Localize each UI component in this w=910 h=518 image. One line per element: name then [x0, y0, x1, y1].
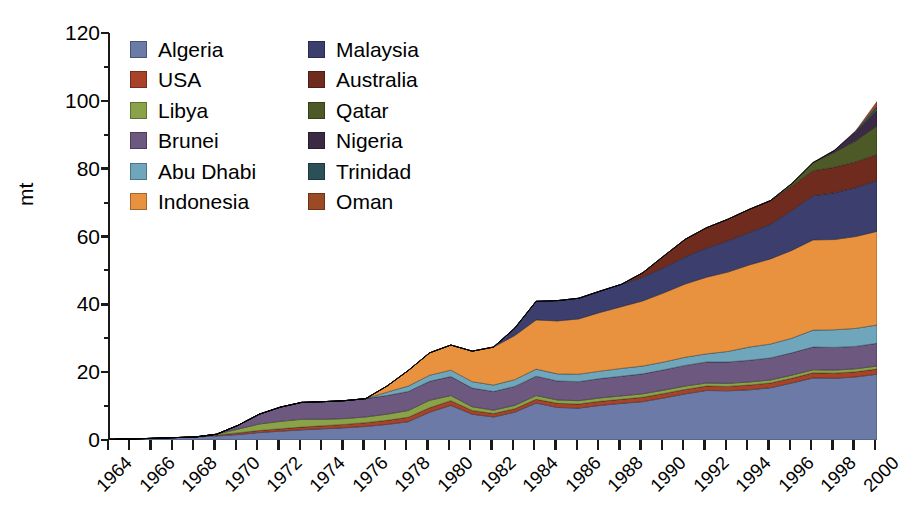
x-axis-tick-marks: [108, 440, 877, 451]
x-axis-tick-mark: [107, 440, 109, 450]
legend-swatch-icon: [308, 193, 325, 210]
x-axis-tick-mark: [746, 440, 748, 450]
legend-label: Oman: [336, 191, 393, 212]
x-axis-tick-mark: [128, 440, 130, 450]
x-axis-tick-mark: [277, 440, 279, 450]
x-axis-tick-mark: [490, 440, 492, 450]
legend-swatch-icon: [308, 102, 325, 119]
y-axis-tick-label: 40: [77, 293, 100, 314]
x-axis-tick-label: 1978: [390, 452, 435, 497]
x-axis-tick-mark: [512, 440, 514, 450]
x-axis-tick-label: 1982: [475, 452, 520, 497]
x-axis-tick-mark: [576, 440, 578, 450]
legend-item-trinidad[interactable]: Trinidad: [308, 156, 419, 187]
x-axis-tick-mark: [533, 440, 535, 450]
x-axis-tick-mark: [831, 440, 833, 450]
legend-item-malaysia[interactable]: Malaysia: [308, 34, 419, 65]
legend-item-libya[interactable]: Libya: [130, 95, 256, 126]
y-axis-tick-label: 120: [65, 22, 100, 43]
x-axis-tick-label: 1972: [262, 452, 307, 497]
x-axis-tick-mark: [618, 440, 620, 450]
x-axis-tick-mark: [362, 440, 364, 450]
x-axis-tick-label: 1988: [603, 452, 648, 497]
x-axis-tick-label: 2000: [859, 452, 904, 497]
y-axis-tick-label: 100: [65, 90, 100, 111]
x-axis-tick-mark: [725, 440, 727, 450]
x-axis-tick-mark: [682, 440, 684, 450]
legend-item-usa[interactable]: USA: [130, 65, 256, 96]
x-axis-tick-label: 1996: [774, 452, 819, 497]
x-axis-tick-mark: [171, 440, 173, 450]
y-axis-tick-label: 80: [77, 158, 100, 179]
x-axis-tick-label: 1984: [518, 452, 563, 497]
y-axis-tick-label: 20: [77, 361, 100, 382]
x-axis-tick-mark: [874, 440, 876, 450]
legend-label: Brunei: [158, 130, 219, 151]
legend-column-2: MalaysiaAustraliaQatarNigeriaTrinidadOma…: [308, 34, 419, 217]
legend-swatch-icon: [308, 132, 325, 149]
x-axis-tick-label: 1992: [688, 452, 733, 497]
x-axis-tick-mark: [469, 440, 471, 450]
x-axis-tick-mark: [554, 440, 556, 450]
x-axis-tick-label: 1980: [433, 452, 478, 497]
x-axis-tick-mark: [767, 440, 769, 450]
x-axis-tick-mark: [639, 440, 641, 450]
legend-item-oman[interactable]: Oman: [308, 187, 419, 218]
legend-item-algeria[interactable]: Algeria: [130, 34, 256, 65]
y-axis-title: mt: [14, 183, 38, 206]
x-axis-tick-mark: [341, 440, 343, 450]
x-axis-tick-mark: [426, 440, 428, 450]
legend-item-brunei[interactable]: Brunei: [130, 126, 256, 157]
x-axis-tick-mark: [192, 440, 194, 450]
legend-swatch-icon: [130, 163, 147, 180]
legend-swatch-icon: [308, 41, 325, 58]
legend-swatch-icon: [130, 102, 147, 119]
legend-label: Abu Dhabi: [158, 161, 256, 182]
x-axis-tick-label: 1990: [646, 452, 691, 497]
legend-item-abu-dhabi[interactable]: Abu Dhabi: [130, 156, 256, 187]
x-axis-tick-mark: [320, 440, 322, 450]
legend-swatch-icon: [130, 41, 147, 58]
x-axis-tick-label: 1976: [348, 452, 393, 497]
legend-label: Libya: [158, 100, 208, 121]
x-axis-tick-labels: 1964196619681970197219741976197819801982…: [108, 452, 877, 518]
y-axis-tick-label: 60: [77, 226, 100, 247]
legend-label: Malaysia: [336, 39, 419, 60]
legend-swatch-icon: [130, 132, 147, 149]
legend-label: Nigeria: [336, 130, 403, 151]
x-axis-tick-mark: [213, 440, 215, 450]
x-axis-tick-mark: [235, 440, 237, 450]
legend-label: Algeria: [158, 39, 223, 60]
x-axis-tick-mark: [405, 440, 407, 450]
y-axis-tick-label: 0: [88, 429, 100, 450]
x-axis-tick-label: 1986: [561, 452, 606, 497]
x-axis-tick-mark: [852, 440, 854, 450]
legend-label: USA: [158, 69, 201, 90]
x-axis-tick-mark: [149, 440, 151, 450]
x-axis-tick-mark: [789, 440, 791, 450]
y-axis-tick-labels: 020406080100120: [48, 33, 100, 440]
legend-label: Indonesia: [158, 191, 249, 212]
legend-item-nigeria[interactable]: Nigeria: [308, 126, 419, 157]
x-axis-tick-mark: [661, 440, 663, 450]
x-axis-tick-mark: [448, 440, 450, 450]
x-axis-tick-mark: [384, 440, 386, 450]
x-axis-tick-label: 1970: [220, 452, 265, 497]
x-axis-tick-mark: [810, 440, 812, 450]
x-axis-tick-label: 1964: [92, 452, 137, 497]
chart-canvas: mt 020406080100120 196419661968197019721…: [0, 0, 910, 518]
legend-label: Qatar: [336, 100, 389, 121]
legend-item-indonesia[interactable]: Indonesia: [130, 187, 256, 218]
legend: AlgeriaUSALibyaBruneiAbu DhabiIndonesiaM…: [130, 34, 419, 217]
legend-item-australia[interactable]: Australia: [308, 65, 419, 96]
x-axis-tick-label: 1974: [305, 452, 350, 497]
legend-item-qatar[interactable]: Qatar: [308, 95, 419, 126]
legend-swatch-icon: [130, 71, 147, 88]
legend-swatch-icon: [308, 71, 325, 88]
x-axis-tick-mark: [299, 440, 301, 450]
x-axis-tick-label: 1998: [816, 452, 861, 497]
x-axis-tick-label: 1968: [177, 452, 222, 497]
x-axis-tick-label: 1994: [731, 452, 776, 497]
x-axis-tick-mark: [597, 440, 599, 450]
legend-swatch-icon: [308, 163, 325, 180]
